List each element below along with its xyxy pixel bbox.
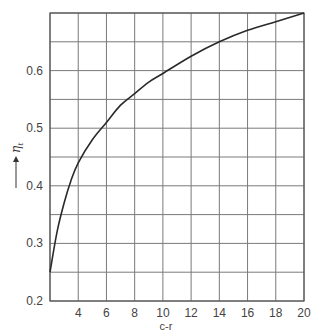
x-axis-label: c-r <box>160 320 173 332</box>
y-tick-label: 0.2 <box>26 294 43 308</box>
y-tick-label: 0.5 <box>26 121 43 135</box>
x-tick-label: 12 <box>184 306 198 320</box>
y-tick-label: 0.3 <box>26 236 43 250</box>
y-tick-label: 0.6 <box>26 64 43 78</box>
x-tick-label: 18 <box>269 306 283 320</box>
efficiency-curve <box>50 13 304 272</box>
arrow-head-icon <box>13 156 19 162</box>
chart: 468101214161820 0.20.30.40.50.6 c-r <box>0 0 316 335</box>
x-tick-label: 20 <box>297 306 311 320</box>
x-tick-label: 6 <box>103 306 110 320</box>
x-tick-label: 4 <box>75 306 82 320</box>
x-tick-label: 14 <box>213 306 227 320</box>
x-axis-ticks: 468101214161820 <box>75 306 311 320</box>
grid-lines <box>50 13 304 301</box>
x-tick-label: 8 <box>131 306 138 320</box>
x-tick-label: 16 <box>241 306 255 320</box>
y-axis-label: ηt <box>6 140 26 200</box>
series-line <box>50 13 304 272</box>
svg-text:ηt: ηt <box>9 142 25 153</box>
y-axis-ticks: 0.20.30.40.50.6 <box>26 64 43 308</box>
x-tick-label: 10 <box>156 306 170 320</box>
y-tick-label: 0.4 <box>26 179 43 193</box>
